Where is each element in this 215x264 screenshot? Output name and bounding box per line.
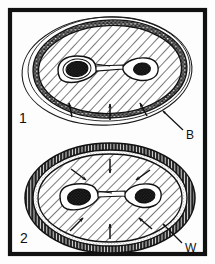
callout-w-label: W [185,241,197,255]
figure-container: 1 B [0,0,215,264]
callout-b-label: B [186,128,194,142]
figure-diagram: 1 B [0,0,215,264]
panel-2-number: 2 [20,230,28,246]
panel-1-number: 1 [19,110,27,126]
